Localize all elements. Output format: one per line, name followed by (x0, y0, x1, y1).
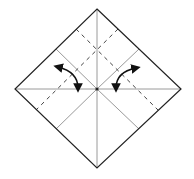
diagram-canvas (0, 0, 194, 179)
origami-diagram: Origami fold diagram: square base with v… (0, 0, 194, 179)
fold-arrow-right-icon (116, 68, 136, 88)
lower-right-diagonal-crease (97, 89, 139, 129)
fold-arrow-left-icon (58, 67, 78, 88)
center-point (95, 87, 98, 90)
lower-left-diagonal-crease (56, 89, 97, 129)
